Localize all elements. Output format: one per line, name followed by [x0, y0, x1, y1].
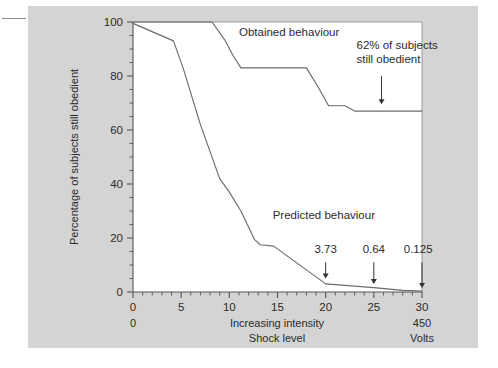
y-tick-label: 20 — [110, 232, 123, 244]
y-tick-label: 60 — [110, 124, 123, 136]
annotation-text: 0.64 — [363, 243, 386, 255]
x-tick-label: 30 — [416, 301, 429, 313]
x-tick-label: 5 — [178, 301, 184, 313]
annotation-text-line2: still obedient — [356, 53, 421, 65]
annotation-text: 0.125 — [404, 243, 433, 255]
y-axis-title: Percentage of subjects still obedient — [68, 69, 80, 245]
x-tick-label: 10 — [223, 301, 236, 313]
y-tick-label: 0 — [117, 286, 123, 298]
y-axis-tick-labels: 020406080100 — [104, 16, 123, 298]
x-axis-ticks — [133, 292, 422, 298]
series-label-obtained: Obtained behaviour — [239, 26, 340, 38]
x-axis-right-unit: Volts — [410, 332, 434, 344]
annotation-text: 3.73 — [314, 243, 336, 255]
x-tick-label: 20 — [319, 301, 332, 313]
x-tick-label: 25 — [367, 301, 380, 313]
y-tick-label: 40 — [110, 178, 123, 190]
x-axis-title-intensity: Increasing intensity — [230, 317, 325, 329]
series-label-predicted: Predicted behaviour — [273, 209, 375, 221]
y-tick-label: 80 — [110, 70, 123, 82]
y-tick-label: 100 — [104, 16, 123, 28]
x-tick-label: 0 — [130, 301, 136, 313]
chart-canvas: 051015202530 020406080100 Obtained behav… — [0, 0, 498, 368]
x-axis-right-value: 450 — [413, 317, 431, 329]
x-axis-title-shock-level: Shock level — [249, 332, 305, 344]
x-axis-left-value: 0 — [130, 317, 136, 329]
y-axis-ticks — [127, 22, 133, 292]
x-tick-label: 15 — [271, 301, 284, 313]
annotation-text-line1: 62% of subjects — [356, 39, 437, 51]
figure-root: 051015202530 020406080100 Obtained behav… — [0, 0, 498, 368]
x-axis-tick-labels: 051015202530 — [130, 301, 429, 313]
